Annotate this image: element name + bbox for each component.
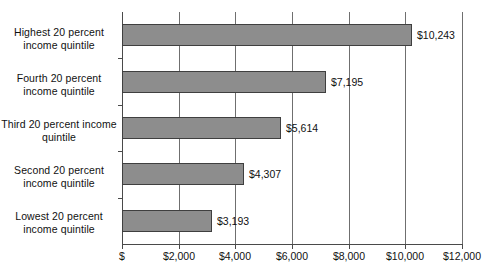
category-axis-labels: Highest 20 percent income quintile Fourt… (0, 12, 120, 244)
y-axis-tick (118, 58, 122, 59)
bar (122, 71, 326, 93)
category-label-highest: Highest 20 percent income quintile (0, 26, 118, 51)
gridline (405, 12, 406, 244)
bar (122, 210, 212, 232)
category-label-line1: Lowest 20 percent (15, 210, 103, 222)
x-axis-tick (122, 244, 123, 249)
gridline (462, 12, 463, 244)
category-label-line2: income quintile (23, 39, 95, 51)
bar (122, 117, 281, 139)
category-label-line2: income quintile (23, 85, 95, 97)
x-axis-tick-label: $6,000 (276, 250, 308, 263)
x-axis-tick (292, 244, 293, 249)
x-axis-tick-label: $12,000 (443, 250, 481, 263)
x-axis-tick-label: $2,000 (163, 250, 195, 263)
category-label-third: Third 20 percent income quintile (0, 118, 118, 143)
x-axis-tick-labels: $$2,000$4,000$6,000$8,000$10,000$12,000 (122, 250, 482, 268)
category-label-line1: Third 20 percent income (1, 118, 117, 130)
x-axis-tick (462, 244, 463, 249)
x-axis-tick (349, 244, 350, 249)
category-label-second: Second 20 percent income quintile (0, 164, 118, 189)
x-axis-tick-label: $4,000 (219, 250, 251, 263)
x-axis-tick (405, 244, 406, 249)
category-label-line2: income quintile (23, 177, 95, 189)
y-axis-tick (118, 105, 122, 106)
bar (122, 163, 244, 185)
category-label-line1: Fourth 20 percent (17, 72, 102, 84)
category-label-line2: quintile (42, 131, 76, 143)
category-label-lowest: Lowest 20 percent income quintile (0, 210, 118, 235)
gridline (349, 12, 350, 244)
category-label-line1: Highest 20 percent (14, 26, 104, 38)
category-label-line1: Second 20 percent (14, 164, 104, 176)
bar-value-label: $10,243 (417, 29, 455, 41)
category-label-line2: income quintile (23, 223, 95, 235)
x-axis-tick (235, 244, 236, 249)
x-axis-tick-label: $ (119, 250, 125, 263)
plot-area: $10,243$7,195$5,614$4,307$3,193 (122, 12, 462, 244)
bar-chart: Highest 20 percent income quintile Fourt… (0, 0, 482, 274)
x-axis-tick-label: $8,000 (333, 250, 365, 263)
bar-value-label: $3,193 (217, 215, 249, 227)
category-label-fourth: Fourth 20 percent income quintile (0, 72, 118, 97)
bar-value-label: $7,195 (331, 76, 363, 88)
x-axis-tick-label: $10,000 (386, 250, 424, 263)
y-axis-tick (118, 151, 122, 152)
bar (122, 24, 412, 46)
x-axis-tick (179, 244, 180, 249)
bar-value-label: $5,614 (286, 122, 318, 134)
y-axis-tick (118, 198, 122, 199)
bar-value-label: $4,307 (249, 168, 281, 180)
